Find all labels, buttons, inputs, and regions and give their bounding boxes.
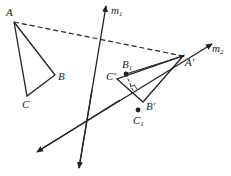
- label-m2: m2: [212, 42, 224, 56]
- label-m1: m1: [111, 4, 122, 18]
- point-B1: [124, 72, 129, 77]
- point-A-prime: [182, 55, 185, 58]
- label-B-prime: B': [146, 100, 156, 112]
- label-C1: C1: [133, 114, 144, 128]
- line-m1-bottom: [79, 90, 92, 168]
- label-B: B: [58, 70, 65, 82]
- geometry-diagram: A B C A' B' C' B1 C1 m1 m2: [0, 0, 231, 176]
- point-C1: [136, 108, 141, 113]
- label-A: A: [5, 6, 13, 18]
- line-m2-left: [37, 100, 120, 152]
- label-B1: B1: [122, 58, 132, 72]
- label-C-prime: C': [106, 70, 116, 82]
- triangle-ABC: [14, 22, 55, 96]
- label-A-prime: A': [184, 56, 195, 68]
- label-C: C: [22, 98, 30, 110]
